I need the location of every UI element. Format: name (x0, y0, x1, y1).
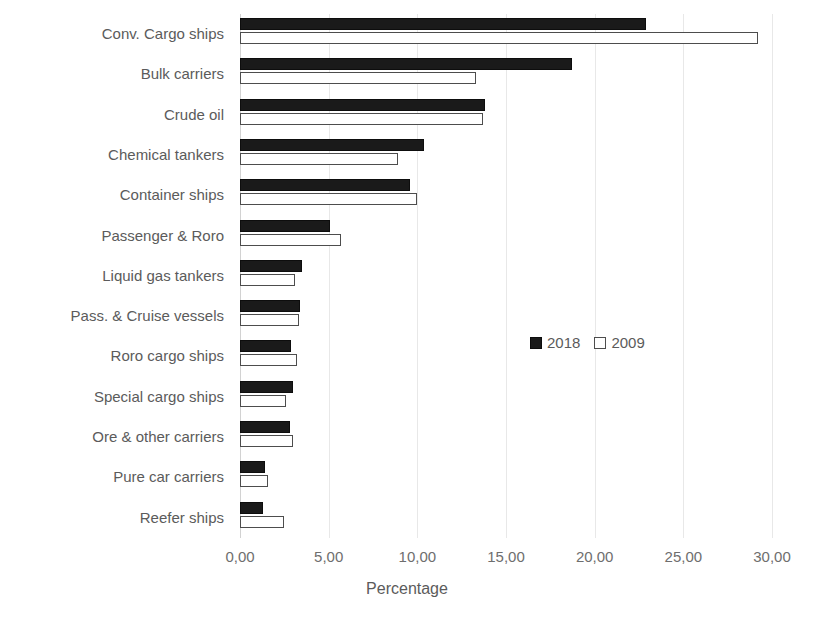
chart-legend: 2018 2009 (530, 334, 645, 351)
category-label: Container ships (120, 175, 224, 215)
bar-2018 (240, 381, 293, 393)
bar-chart: Conv. Cargo shipsBulk carriersCrude oilC… (0, 0, 814, 632)
value-axis-tick-label: 25,00 (665, 548, 703, 565)
legend-label-2018: 2018 (547, 334, 580, 351)
value-axis-tick-label: 30,00 (753, 548, 791, 565)
category-label: Conv. Cargo ships (102, 14, 224, 54)
bar-2018 (240, 220, 330, 232)
bar-2018 (240, 18, 646, 30)
category-label: Passenger & Roro (101, 216, 224, 256)
bar-row (240, 296, 772, 336)
value-axis-tick-label: 20,00 (576, 548, 614, 565)
category-label: Ore & other carriers (92, 417, 224, 457)
legend-item-2018: 2018 (530, 334, 580, 351)
bar-row (240, 377, 772, 417)
bar-2018 (240, 461, 265, 473)
hollow-square-icon (594, 337, 606, 349)
bar-row (240, 457, 772, 497)
bar-2018 (240, 99, 485, 111)
bar-2018 (240, 179, 410, 191)
category-label: Bulk carriers (141, 54, 224, 94)
bar-2018 (240, 139, 424, 151)
bar-row (240, 175, 772, 215)
bar-row (240, 135, 772, 175)
bar-2009 (240, 314, 299, 326)
category-label: Chemical tankers (108, 135, 224, 175)
category-label: Crude oil (164, 95, 224, 135)
bar-2009 (240, 32, 758, 44)
category-label: Roro cargo ships (111, 336, 224, 376)
bar-2018 (240, 340, 291, 352)
bar-2018 (240, 58, 572, 70)
bar-2009 (240, 435, 293, 447)
bar-2018 (240, 300, 300, 312)
value-axis-tick-label: 5,00 (314, 548, 343, 565)
value-axis-tick-label: 0,00 (225, 548, 254, 565)
bar-2009 (240, 72, 476, 84)
value-axis-tick-label: 15,00 (487, 548, 525, 565)
bar-2009 (240, 234, 341, 246)
legend-item-2009: 2009 (594, 334, 644, 351)
bar-2009 (240, 475, 268, 487)
value-axis-tick-label: 10,00 (399, 548, 437, 565)
bar-2009 (240, 354, 297, 366)
filled-square-icon (530, 337, 542, 349)
bar-row (240, 417, 772, 457)
gridline (772, 14, 773, 538)
category-axis-labels: Conv. Cargo shipsBulk carriersCrude oilC… (0, 14, 232, 538)
bar-2009 (240, 516, 284, 528)
bar-rows (240, 14, 772, 538)
bar-row (240, 256, 772, 296)
bar-2009 (240, 153, 398, 165)
bar-row (240, 95, 772, 135)
plot-area (240, 14, 772, 538)
value-axis-tick-labels: 0,005,0010,0015,0020,0025,0030,00 (240, 548, 772, 570)
bar-row (240, 54, 772, 94)
bar-2009 (240, 113, 483, 125)
bar-2018 (240, 421, 290, 433)
bar-2018 (240, 260, 302, 272)
bar-row (240, 498, 772, 538)
bar-row (240, 336, 772, 376)
category-label: Pass. & Cruise vessels (71, 296, 224, 336)
category-label: Reefer ships (140, 498, 224, 538)
bar-row (240, 216, 772, 256)
x-axis-title: Percentage (0, 580, 814, 598)
legend-label-2009: 2009 (611, 334, 644, 351)
category-label: Pure car carriers (113, 457, 224, 497)
category-label: Liquid gas tankers (102, 256, 224, 296)
bar-2009 (240, 274, 295, 286)
category-label: Special cargo ships (94, 377, 224, 417)
bar-row (240, 14, 772, 54)
bar-2018 (240, 502, 263, 514)
bar-2009 (240, 395, 286, 407)
bar-2009 (240, 193, 417, 205)
